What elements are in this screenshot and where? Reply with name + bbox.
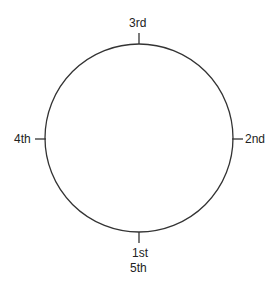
label-right: 2nd <box>245 132 265 146</box>
label-bottom-2: 5th <box>130 261 147 275</box>
circle-diagram <box>0 0 280 287</box>
circle <box>45 44 233 232</box>
label-bottom-1: 1st <box>132 246 148 260</box>
label-top: 3rd <box>129 16 146 30</box>
label-left: 4th <box>14 132 31 146</box>
